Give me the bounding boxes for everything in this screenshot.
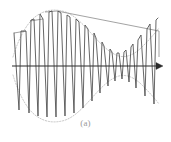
upper-chord-line — [57, 11, 159, 31]
figure-caption: (a) — [0, 118, 171, 129]
x-axis-arrowhead-icon — [156, 63, 163, 70]
figure-container: (a) — [0, 0, 171, 142]
lower-envelope-curve — [13, 75, 159, 122]
x-axis-group — [12, 63, 163, 70]
